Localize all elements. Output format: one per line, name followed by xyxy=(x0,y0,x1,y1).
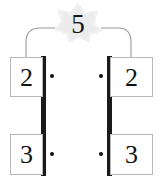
multiplication-dot-left-bottom xyxy=(50,152,54,156)
box-left-top: 2 xyxy=(10,57,43,97)
multiplication-dot-right-top xyxy=(99,74,103,78)
multiplication-dot-left-top xyxy=(50,74,54,78)
top-number-label: 5 xyxy=(56,8,100,40)
box-right-bottom-value: 3 xyxy=(111,135,152,175)
box-left-bottom-value: 3 xyxy=(11,135,42,175)
box-right-top-value: 2 xyxy=(111,58,152,97)
multiplication-dot-right-bottom xyxy=(99,152,103,156)
diagram-canvas: 5 2 3 2 3 xyxy=(0,0,163,184)
box-left-bottom: 3 xyxy=(10,134,43,175)
box-left-top-value: 2 xyxy=(11,58,42,97)
connector-right xyxy=(101,28,131,57)
box-right-bottom: 3 xyxy=(110,134,153,175)
connector-left xyxy=(26,28,55,57)
box-right-top: 2 xyxy=(110,57,153,97)
